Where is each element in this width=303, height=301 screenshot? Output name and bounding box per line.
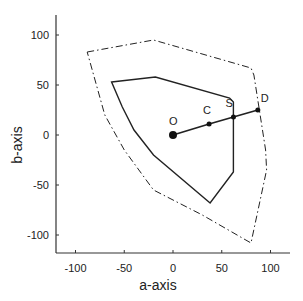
- point-c-marker: [207, 122, 212, 127]
- gamut-chart: -100-50050100 -100-50050100 a-axis b-axi…: [0, 0, 303, 301]
- point-s-label: S: [225, 97, 232, 109]
- point-d-marker: [255, 108, 260, 113]
- outer-boundary-line: [87, 40, 266, 243]
- x-tick-label: 50: [216, 262, 228, 274]
- x-tick-label: -100: [64, 262, 86, 274]
- point-o-marker: [169, 131, 177, 139]
- point-s-marker: [231, 115, 236, 120]
- x-axis-label: a-axis: [139, 277, 176, 293]
- y-tick-label: -100: [27, 229, 49, 241]
- series-layer: [87, 40, 266, 243]
- y-tick-label: 0: [43, 129, 49, 141]
- x-tick-label: 100: [261, 262, 279, 274]
- y-axis-label: b-axis: [9, 126, 25, 163]
- mapping-line: [173, 110, 258, 135]
- x-tick-label: -50: [116, 262, 132, 274]
- point-c-label: C: [203, 104, 211, 116]
- x-tick-label: 0: [170, 262, 176, 274]
- x-ticks: -100-50050100: [64, 250, 279, 274]
- axes: -100-50050100 -100-50050100 a-axis b-axi…: [9, 15, 290, 293]
- point-o-label: O: [169, 115, 178, 127]
- point-d-label: D: [261, 92, 269, 104]
- y-tick-label: 50: [37, 79, 49, 91]
- y-tick-label: -50: [33, 179, 49, 191]
- y-tick-label: 100: [31, 29, 49, 41]
- inner-boundary-line: [112, 77, 234, 203]
- y-ticks: -100-50050100: [27, 29, 59, 241]
